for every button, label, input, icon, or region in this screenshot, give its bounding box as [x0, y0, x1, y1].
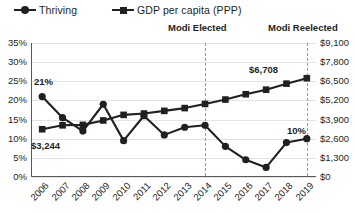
data-label-thriving-start: 21%	[34, 76, 53, 87]
circle-marker-icon[interactable]	[79, 127, 86, 134]
x-tick-2014: 2014	[188, 180, 214, 206]
circle-marker-icon[interactable]	[222, 143, 229, 150]
x-tick-2019: 2019	[289, 180, 315, 206]
circle-marker-icon[interactable]	[100, 101, 107, 108]
y-tick-left: 5%	[1, 152, 27, 163]
data-label-gdp-start: $3,244	[31, 140, 60, 151]
square-marker-icon[interactable]	[59, 122, 66, 129]
y-tick-right: $5,200	[320, 94, 354, 105]
square-marker-icon[interactable]	[304, 75, 311, 82]
x-tick-2016: 2016	[228, 180, 254, 206]
y-tick-right: $6,500	[320, 75, 354, 86]
x-tick-2017: 2017	[249, 180, 275, 206]
square-marker-icon[interactable]	[141, 110, 148, 117]
square-marker-icon[interactable]	[181, 105, 188, 112]
y-tick-right: $7,800	[320, 56, 354, 67]
circle-marker-icon[interactable]	[161, 131, 168, 138]
y-tick-left: 20%	[1, 94, 27, 105]
y-tick-right: $2,600	[320, 133, 354, 144]
circle-marker-icon[interactable]	[39, 93, 46, 100]
y-tick-right: $3,900	[320, 114, 354, 125]
data-label-thriving-end: 10%	[287, 125, 306, 136]
circle-marker-icon[interactable]	[283, 139, 290, 146]
circle-marker-icon[interactable]	[181, 124, 188, 131]
circle-marker-icon[interactable]	[59, 114, 66, 121]
x-tick-2011: 2011	[127, 180, 153, 206]
x-tick-2015: 2015	[208, 180, 234, 206]
legend-item-gdp-per-capita[interactable]: GDP per capita (PPP)	[112, 0, 242, 20]
legend-item-thriving[interactable]: Thriving	[14, 0, 77, 20]
square-marker-icon[interactable]	[80, 122, 87, 129]
square-marker-icon[interactable]	[120, 112, 127, 119]
y-tick-left: 0%	[1, 171, 27, 182]
legend-label-gdp-per-capita: GDP per capita (PPP)	[137, 4, 242, 16]
gridline	[32, 177, 316, 178]
circle-marker-icon[interactable]	[201, 122, 208, 129]
y-tick-right: $0	[320, 171, 354, 182]
chart-legend: Thriving GDP per capita (PPP)	[0, 0, 355, 20]
square-marker-icon[interactable]	[202, 101, 209, 108]
x-tick-2008: 2008	[66, 180, 92, 206]
y-tick-right: $1,300	[320, 152, 354, 163]
circle-marker-icon[interactable]	[242, 156, 249, 163]
x-tick-2009: 2009	[86, 180, 112, 206]
square-marker-icon[interactable]	[222, 96, 229, 103]
annotation-modi-elected: Modi Elected	[168, 22, 227, 33]
x-tick-2018: 2018	[269, 180, 295, 206]
square-marker-icon[interactable]	[161, 108, 168, 115]
x-tick-2010: 2010	[106, 180, 132, 206]
square-marker-icon	[112, 5, 134, 15]
y-tick-left: 35%	[1, 37, 27, 48]
x-tick-2007: 2007	[45, 180, 71, 206]
x-tick-2012: 2012	[147, 180, 173, 206]
y-tick-left: 30%	[1, 56, 27, 67]
y-tick-left: 25%	[1, 75, 27, 86]
circle-marker-icon[interactable]	[263, 164, 270, 171]
square-marker-icon[interactable]	[39, 126, 46, 133]
data-label-gdp-end: $6,708	[249, 64, 278, 75]
circle-marker-icon[interactable]	[120, 137, 127, 144]
chart-root: Thriving GDP per capita (PPP) Modi Elect…	[0, 0, 355, 213]
y-tick-left: 15%	[1, 114, 27, 125]
annotation-modi-reelected: Modi Reelected	[268, 22, 338, 33]
x-tick-2006: 2006	[25, 180, 51, 206]
square-marker-icon[interactable]	[283, 80, 290, 87]
square-marker-icon[interactable]	[242, 91, 249, 98]
square-marker-icon[interactable]	[263, 86, 270, 93]
legend-label-thriving: Thriving	[39, 4, 77, 16]
y-tick-left: 10%	[1, 133, 27, 144]
y-tick-right: $9,100	[320, 37, 354, 48]
circle-marker-icon[interactable]	[303, 135, 310, 142]
x-tick-2013: 2013	[167, 180, 193, 206]
circle-marker-icon	[14, 5, 36, 15]
square-marker-icon[interactable]	[100, 117, 107, 124]
